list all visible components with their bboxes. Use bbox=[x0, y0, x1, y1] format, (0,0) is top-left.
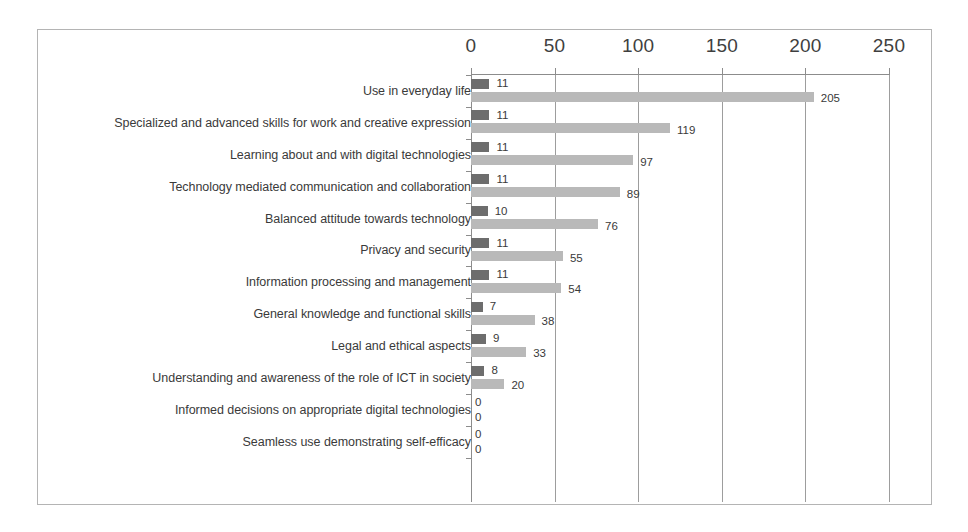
bar-group: 11205 bbox=[471, 75, 931, 107]
chart-row[interactable]: Technology mediated communication and co… bbox=[38, 171, 931, 203]
category-label: Technology mediated communication and co… bbox=[169, 180, 471, 194]
chart-row[interactable]: Use in everyday life11205 bbox=[38, 75, 931, 107]
x-axis-tick-label: 200 bbox=[789, 35, 821, 57]
bar-group: 1154 bbox=[471, 266, 931, 298]
bar-value-label: 0 bbox=[475, 444, 481, 456]
bar-group: 00 bbox=[471, 426, 931, 458]
chart-row[interactable]: Informed decisions on appropriate digita… bbox=[38, 394, 931, 426]
bar-series-b[interactable] bbox=[471, 379, 504, 389]
bar-series-b[interactable] bbox=[471, 92, 814, 102]
bar-value-label: 55 bbox=[570, 253, 583, 265]
bar-value-label: 11 bbox=[496, 142, 508, 154]
category-label: Legal and ethical aspects bbox=[331, 339, 471, 353]
x-axis-tick-label: 50 bbox=[544, 35, 566, 57]
bar-value-label: 11 bbox=[496, 174, 508, 186]
x-axis-tick bbox=[722, 68, 723, 75]
bar-series-a[interactable] bbox=[471, 142, 489, 152]
chart-row[interactable]: Seamless use demonstrating self-efficacy… bbox=[38, 426, 931, 458]
bar-value-label: 54 bbox=[568, 284, 581, 296]
bar-group: 933 bbox=[471, 330, 931, 362]
chart-row[interactable]: Information processing and management115… bbox=[38, 266, 931, 298]
bar-series-a[interactable] bbox=[471, 334, 486, 344]
x-axis-tick bbox=[638, 68, 639, 75]
x-axis-tick bbox=[471, 68, 472, 75]
bar-value-label: 119 bbox=[677, 125, 695, 137]
bar-series-b[interactable] bbox=[471, 315, 535, 325]
bar-series-a[interactable] bbox=[471, 206, 488, 216]
bar-group: 1155 bbox=[471, 235, 931, 267]
chart-row[interactable]: Privacy and security1155 bbox=[38, 235, 931, 267]
x-axis-tick bbox=[889, 68, 890, 75]
category-label: Seamless use demonstrating self-efficacy bbox=[243, 435, 471, 449]
category-label: Privacy and security bbox=[360, 243, 471, 257]
category-label: General knowledge and functional skills bbox=[253, 307, 471, 321]
chart-row[interactable]: Specialized and advanced skills for work… bbox=[38, 107, 931, 139]
bar-series-a[interactable] bbox=[471, 174, 489, 184]
category-tick bbox=[466, 458, 472, 459]
bar-value-label: 11 bbox=[496, 269, 508, 281]
bar-value-label: 38 bbox=[542, 316, 555, 328]
bar-value-label: 11 bbox=[496, 78, 508, 90]
chart-row[interactable]: Balanced attitude towards technology1076 bbox=[38, 203, 931, 235]
category-label: Informed decisions on appropriate digita… bbox=[175, 403, 471, 417]
bar-value-label: 205 bbox=[821, 93, 840, 105]
bar-value-label: 8 bbox=[491, 365, 497, 377]
bar-group: 1076 bbox=[471, 203, 931, 235]
bar-value-label: 0 bbox=[475, 412, 481, 424]
x-axis-tick-label: 100 bbox=[622, 35, 654, 57]
bar-group: 1189 bbox=[471, 171, 931, 203]
x-axis-tick-label: 150 bbox=[706, 35, 738, 57]
category-label: Specialized and advanced skills for work… bbox=[114, 116, 471, 130]
bar-series-a[interactable] bbox=[471, 270, 489, 280]
x-axis-tick-label: 0 bbox=[466, 35, 477, 57]
bar-value-label: 9 bbox=[493, 333, 499, 345]
category-label: Understanding and awareness of the role … bbox=[152, 371, 471, 385]
bar-value-label: 76 bbox=[605, 221, 618, 233]
bar-series-b[interactable] bbox=[471, 187, 620, 197]
bar-group: 11119 bbox=[471, 107, 931, 139]
bar-series-b[interactable] bbox=[471, 283, 561, 293]
bar-series-b[interactable] bbox=[471, 155, 633, 165]
bar-series-a[interactable] bbox=[471, 302, 483, 312]
plot-area: Use in everyday life11205Specialized and… bbox=[38, 75, 931, 504]
bar-group: 820 bbox=[471, 362, 931, 394]
chart-row[interactable]: General knowledge and functional skills7… bbox=[38, 298, 931, 330]
category-label: Balanced attitude towards technology bbox=[265, 212, 471, 226]
category-label: Learning about and with digital technolo… bbox=[230, 148, 471, 162]
bar-group: 738 bbox=[471, 298, 931, 330]
chart-frame: 050100150200250 Use in everyday life1120… bbox=[37, 29, 932, 505]
chart-row[interactable]: Legal and ethical aspects933 bbox=[38, 330, 931, 362]
bar-series-b[interactable] bbox=[471, 219, 598, 229]
bar-value-label: 11 bbox=[496, 238, 508, 250]
bar-group: 00 bbox=[471, 394, 931, 426]
x-axis: 050100150200250 bbox=[38, 30, 931, 76]
bar-group: 1197 bbox=[471, 139, 931, 171]
bar-series-a[interactable] bbox=[471, 366, 484, 376]
bar-series-a[interactable] bbox=[471, 79, 489, 89]
category-label: Information processing and management bbox=[246, 275, 471, 289]
bar-value-label: 97 bbox=[640, 157, 653, 169]
category-label: Use in everyday life bbox=[363, 84, 471, 98]
bar-series-a[interactable] bbox=[471, 238, 489, 248]
x-axis-tick bbox=[555, 68, 556, 75]
bar-value-label: 0 bbox=[475, 429, 481, 441]
x-axis-tick-label: 250 bbox=[873, 35, 905, 57]
bar-series-a[interactable] bbox=[471, 110, 489, 120]
bar-value-label: 10 bbox=[495, 206, 508, 218]
chart-row[interactable]: Understanding and awareness of the role … bbox=[38, 362, 931, 394]
bar-value-label: 33 bbox=[533, 348, 546, 360]
x-axis-tick bbox=[805, 68, 806, 75]
bar-series-b[interactable] bbox=[471, 123, 670, 133]
bar-value-label: 0 bbox=[475, 397, 481, 409]
bar-value-label: 7 bbox=[490, 301, 496, 313]
bar-value-label: 11 bbox=[496, 110, 508, 122]
bar-value-label: 20 bbox=[511, 380, 524, 392]
chart-row[interactable]: Learning about and with digital technolo… bbox=[38, 139, 931, 171]
bar-series-b[interactable] bbox=[471, 251, 563, 261]
bar-series-b[interactable] bbox=[471, 347, 526, 357]
bar-value-label: 89 bbox=[627, 189, 640, 201]
